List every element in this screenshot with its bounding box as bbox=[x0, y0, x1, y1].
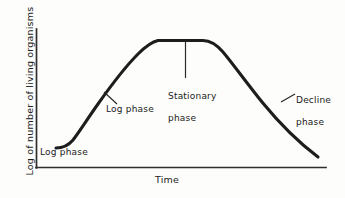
stationary-phase-label-line2: phase bbox=[168, 113, 217, 124]
x-axis-label: Time bbox=[155, 174, 179, 185]
log-phase-label: Log phase bbox=[106, 104, 154, 115]
y-axis-label: Log of number of living organisms bbox=[24, 16, 35, 176]
lag-phase-label: Log phase bbox=[40, 147, 88, 158]
log-phase-leader bbox=[104, 92, 117, 104]
stationary-phase-label: Stationary phase bbox=[168, 80, 217, 135]
decline-phase-label-line1: Decline bbox=[296, 95, 331, 106]
decline-phase-label: Decline phase bbox=[296, 84, 331, 139]
decline-phase-leader bbox=[281, 94, 295, 102]
stationary-phase-label-line1: Stationary bbox=[168, 91, 217, 102]
growth-curve-figure: Log of number of living organisms Time L… bbox=[0, 0, 345, 198]
decline-phase-label-line2: phase bbox=[296, 117, 331, 128]
